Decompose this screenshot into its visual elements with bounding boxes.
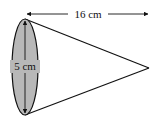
- length-label: 16 cm: [74, 8, 102, 20]
- cone-bottom-edge: [25, 68, 149, 115]
- cone-diagram: 5 cm 16 cm: [0, 0, 157, 117]
- cone-top-edge: [25, 19, 149, 68]
- cone-body: [25, 19, 149, 115]
- diameter-label: 5 cm: [14, 60, 36, 72]
